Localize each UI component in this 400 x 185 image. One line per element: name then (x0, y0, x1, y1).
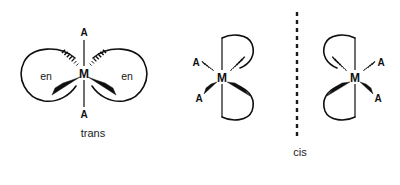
cisleft-upper-left-hash-bond (202, 61, 214, 71)
trans-chelate-label-left: en (40, 70, 52, 82)
trans-metal-label: M (79, 67, 89, 81)
isomer-diagram-canvas: M A A en en trans (0, 0, 400, 185)
trans-chelate-label-right: en (121, 70, 133, 82)
cisleft-lower-right-wedge-bond (227, 82, 250, 96)
cisleft-ligand-label-lower: A (195, 93, 202, 104)
cisleft-lower-left-wedge-bond (204, 82, 217, 94)
cisleft-lower-en-loop (222, 87, 253, 120)
cisleft-metal-label: M (217, 71, 227, 85)
cisright-upper-right-hash-bond (364, 61, 376, 71)
cisright-lower-left-wedge-bond (327, 82, 350, 96)
cisleft-ligand-label-upper: A (192, 57, 199, 68)
trans-axial-ligand-label-bottom: A (80, 109, 87, 120)
structure-trans: M A A en en trans (21, 27, 147, 139)
cisright-ligand-label-upper: A (377, 57, 384, 68)
cisright-upper-left-hash-bond (332, 57, 346, 71)
structure-cis-right: M A A cis (293, 35, 384, 158)
cisright-metal-label: M (350, 71, 360, 85)
cisleft-upper-right-hash-bond (231, 57, 245, 71)
cis-isomer-label: cis (293, 146, 307, 158)
chemical-structure-figure: M A A en en trans (0, 0, 400, 185)
trans-isomer-label: trans (81, 127, 106, 139)
structure-cis-left: M A A (192, 35, 253, 120)
cisright-lower-en-loop (324, 87, 355, 120)
trans-axial-ligand-label-top: A (80, 27, 87, 38)
cisright-ligand-label-lower: A (374, 93, 381, 104)
cisright-lower-right-wedge-bond (360, 82, 373, 94)
